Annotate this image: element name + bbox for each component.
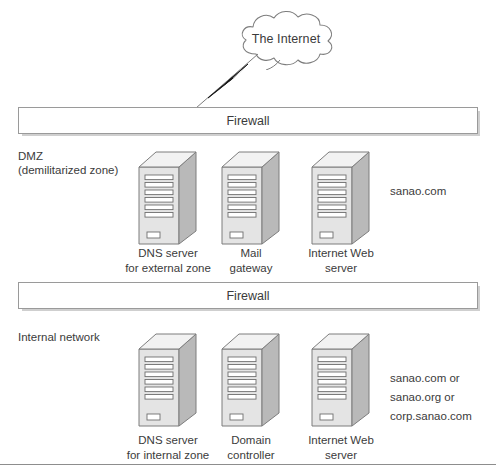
zone-label-internal: Internal network (18, 330, 100, 344)
zone-label-dmz: DMZ (demilitarized zone) (18, 149, 118, 177)
internet-firewall-link (186, 52, 296, 112)
server-dns-external (137, 147, 199, 247)
server-internet-web-internal (310, 329, 372, 429)
bottom-divider (0, 464, 496, 465)
internet-label: The Internet (232, 32, 340, 46)
server-tower-icon (137, 329, 199, 429)
server-internet-web-dmz (310, 147, 372, 247)
server-tower-icon (220, 329, 282, 429)
firewall-label: Firewall (19, 289, 477, 303)
server-mail-gateway (220, 147, 282, 247)
domain-note-line: sanao.com (390, 182, 446, 201)
caption-internet-web-dmz: Internet Web server (282, 246, 400, 275)
server-domain-controller (220, 329, 282, 429)
server-tower-icon (310, 147, 372, 247)
network-diagram: The Internet Firewall DMZ (demilitarized… (0, 0, 496, 474)
server-tower-icon (310, 329, 372, 429)
firewall-label: Firewall (19, 114, 477, 128)
firewall-bar-inner: Firewall (18, 282, 478, 309)
lightning-bolt-icon (186, 52, 296, 112)
domain-note-internal: sanao.com or sanao.org or corp.sanao.com (390, 369, 472, 426)
firewall-bar-outer: Firewall (18, 107, 478, 134)
caption-internet-web-internal: Internet Web server (282, 433, 400, 462)
domain-note-line: corp.sanao.com (390, 407, 472, 426)
server-tower-icon (220, 147, 282, 247)
server-dns-internal (137, 329, 199, 429)
domain-note-line: sanao.org or (390, 388, 472, 407)
domain-note-dmz: sanao.com (390, 182, 446, 201)
server-tower-icon (137, 147, 199, 247)
domain-note-line: sanao.com or (390, 369, 472, 388)
